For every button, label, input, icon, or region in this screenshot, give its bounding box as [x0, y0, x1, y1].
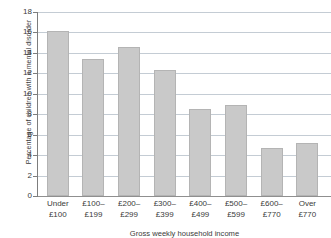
bar [47, 31, 69, 196]
y-tick-label: 14 [2, 49, 32, 57]
bar [189, 109, 211, 196]
y-tick-label: 12 [2, 69, 32, 77]
bar-chart: Percentage of children with a mental dis… [0, 0, 331, 238]
plot-area [38, 12, 331, 196]
y-tick-label: 4 [2, 151, 32, 159]
bar [225, 105, 247, 196]
x-axis-tick-labels: Under£100£100–£199£200–£299£300–£399£400… [38, 199, 331, 229]
bar [82, 59, 104, 196]
gridline [38, 53, 331, 54]
bar [261, 148, 283, 196]
x-axis-title: Gross weekly household income [38, 229, 331, 238]
bar [154, 70, 176, 196]
x-tick-label: Over£770 [283, 199, 331, 220]
bar [118, 47, 140, 196]
y-tick-label: 2 [2, 172, 32, 180]
y-tick-label: 8 [2, 110, 32, 118]
gridline [38, 12, 331, 13]
y-axis-tick-labels: 024681012141618 [0, 0, 32, 238]
y-tick-label: 16 [2, 28, 32, 36]
gridline [38, 32, 331, 33]
y-tick-label: 18 [2, 8, 32, 16]
bar [296, 143, 318, 196]
gridline [38, 196, 331, 197]
y-tick-label: 0 [2, 192, 32, 200]
y-tick-label: 10 [2, 90, 32, 98]
y-tick-label: 6 [2, 131, 32, 139]
